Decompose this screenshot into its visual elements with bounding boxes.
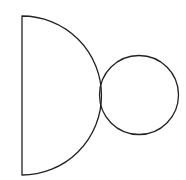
diagram-canvas	[0, 0, 186, 180]
semicircle-shape	[22, 16, 101, 175]
geometric-figure	[0, 0, 186, 180]
circle-shape	[100, 56, 179, 135]
